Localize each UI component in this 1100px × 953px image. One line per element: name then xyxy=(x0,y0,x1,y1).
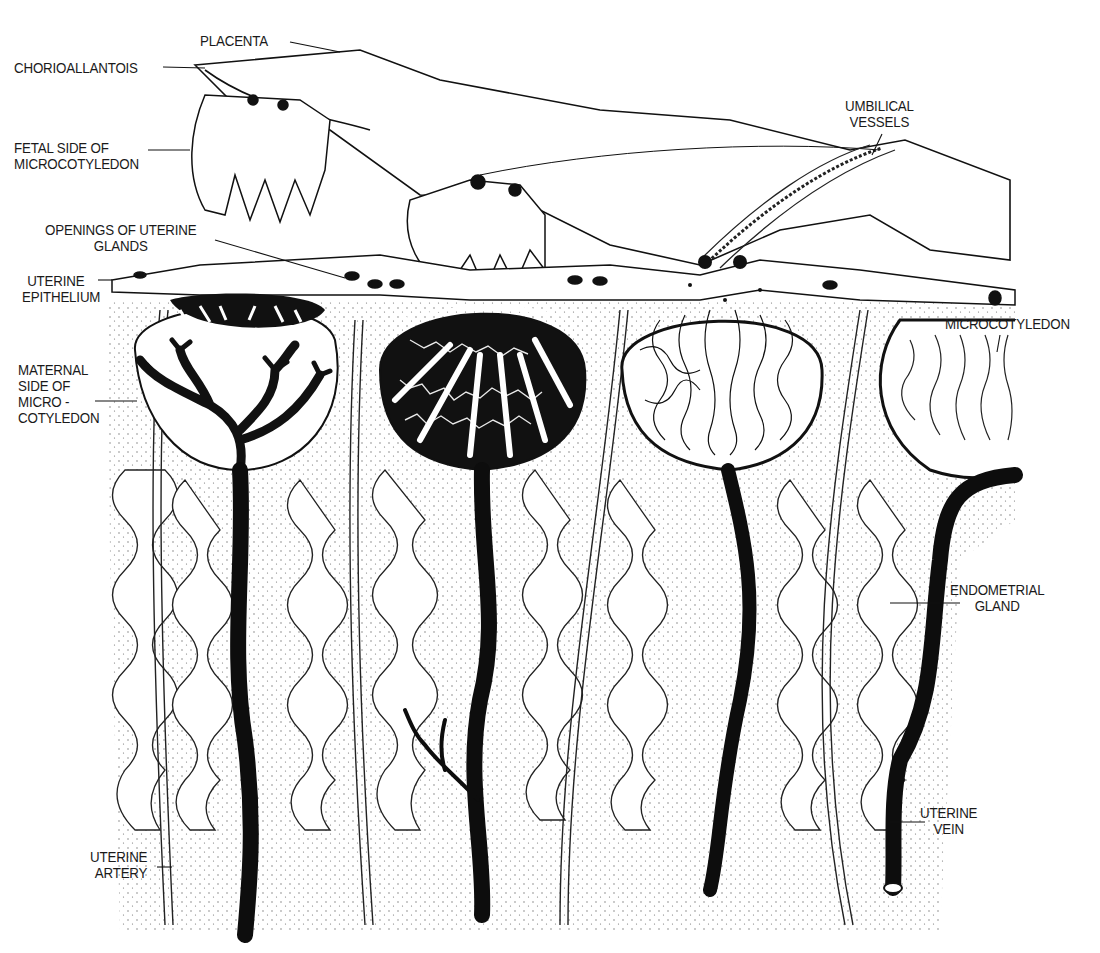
placenta-diagram: PLACENTA CHORIOALLANTOIS FETAL SIDE OF M… xyxy=(0,0,1100,953)
label-chorioallantois: CHORIOALLANTOIS xyxy=(14,60,138,76)
label-uterine-vein: UTERINE VEIN xyxy=(920,805,977,837)
label-umbilical-vessels: UMBILICAL VESSELS xyxy=(845,98,914,130)
vein-cut-end xyxy=(884,883,902,893)
label-maternal-side-of-microcotyledon: MATERNAL SIDE OF MICRO - COTYLEDON xyxy=(18,362,99,426)
label-placenta: PLACENTA xyxy=(200,33,268,49)
label-microcotyledon: MICROCOTYLEDON xyxy=(945,316,1070,332)
label-uterine-epithelium: UTERINE EPITHELIUM xyxy=(22,273,100,305)
label-fetal-side-of-microcotyledon: FETAL SIDE OF MICROCOTYLEDON xyxy=(14,140,139,172)
label-endometrial-gland: ENDOMETRIAL GLAND xyxy=(950,582,1044,614)
fetal-villi-left xyxy=(192,95,330,222)
maternal-crypt-2 xyxy=(380,305,585,470)
label-openings-of-uterine-glands: OPENINGS OF UTERINE GLANDS xyxy=(45,222,197,254)
label-uterine-artery: UTERINE ARTERY xyxy=(90,849,147,881)
